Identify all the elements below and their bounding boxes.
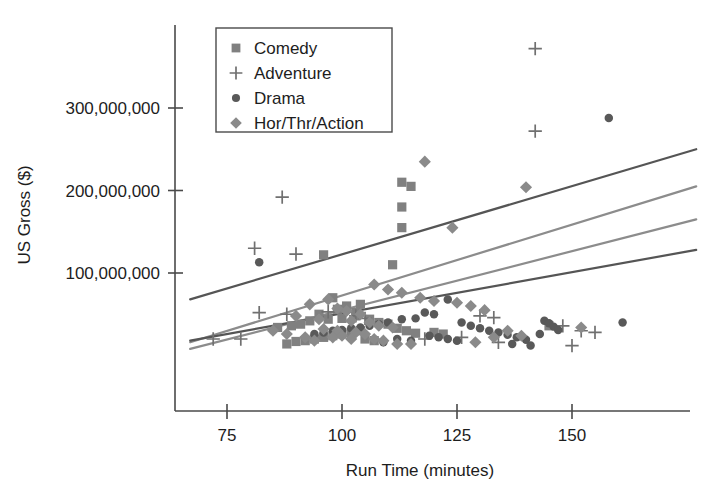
data-point [368,278,380,290]
data-point [396,287,408,299]
trend-top [190,149,696,299]
data-point [382,283,394,295]
y-tick-label: 100,000,000 [65,264,160,283]
data-point [398,315,406,323]
data-point [605,114,613,122]
legend-label: Drama [254,89,306,108]
data-point [282,339,291,348]
data-point [425,331,433,339]
data-point [296,320,305,329]
legend-label: Comedy [254,39,318,58]
x-axis-title: Run Time (minutes) [346,461,494,480]
chart-canvas: 75100125150 100,000,000200,000,000300,00… [0,0,705,490]
legend-label: Adventure [254,64,332,83]
data-point [467,322,475,330]
y-tick-label: 200,000,000 [65,182,160,201]
data-point [453,336,461,344]
data-point [618,318,626,326]
data-point [419,156,431,168]
data-point [276,190,289,203]
data-point [536,330,544,338]
data-point [526,341,534,349]
data-point [397,223,406,232]
data-point [287,321,296,330]
data-point [388,260,397,269]
data-point [565,339,578,352]
data-point [255,258,263,266]
data-point [588,326,601,339]
data-point [356,300,365,309]
data-point [253,306,266,319]
data-point [434,333,442,341]
data-point [469,336,481,348]
data-point [414,292,426,304]
series-drama [255,114,627,350]
data-point [465,300,477,312]
x-tick-label: 125 [443,426,471,445]
data-point [411,329,420,338]
y-ticks-group: 100,000,000200,000,000300,000,000 [65,99,183,283]
x-ticks-group: 75100125150 [218,404,587,445]
data-point [520,181,532,193]
data-point [411,314,419,322]
data-point [508,340,516,348]
data-point [304,298,316,310]
legend-label: Hor/Thr/Action [254,114,364,133]
x-tick-label: 150 [558,426,586,445]
series-hor-thr-action [267,156,587,350]
chart-legend: ComedyAdventureDramaHor/Thr/Action [216,28,392,133]
data-point [476,324,484,332]
legend-marker-square-icon [232,44,241,53]
data-point [248,242,261,255]
data-point [406,182,415,191]
legend-marker-circle-icon [232,94,240,102]
data-point [444,295,452,303]
data-point [391,338,403,350]
y-axis-title: US Gross ($) [15,165,34,264]
data-point [305,316,314,325]
data-point [405,338,417,350]
data-point [529,124,542,137]
y-tick-label: 300,000,000 [65,99,160,118]
data-point [319,250,328,259]
data-point [430,310,438,318]
data-point [421,308,429,316]
data-point [554,326,562,334]
data-point [280,308,293,321]
data-point [397,178,406,187]
data-point [289,247,302,260]
data-point [397,202,406,211]
data-point [451,297,463,309]
x-tick-label: 100 [328,426,356,445]
data-point [291,337,300,346]
data-point [487,311,500,324]
scatter-chart: 75100125150 100,000,000200,000,000300,00… [0,0,705,490]
data-point [575,321,587,333]
data-point [457,318,465,326]
data-point [502,325,514,337]
data-point [402,326,411,335]
x-tick-label: 75 [218,426,237,445]
data-point [529,42,542,55]
data-point [377,335,389,347]
data-point [444,335,452,343]
